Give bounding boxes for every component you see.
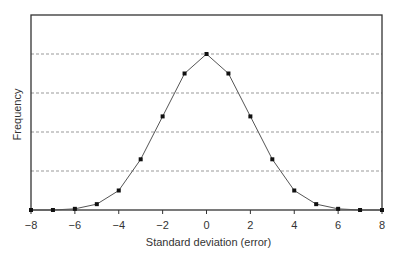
x-tick-label: 6 xyxy=(335,219,341,231)
x-tick-label: −4 xyxy=(112,219,125,231)
x-axis-label: Standard deviation (error) xyxy=(146,236,271,248)
data-point xyxy=(29,208,33,212)
x-tick-label: −2 xyxy=(156,219,169,231)
data-point xyxy=(226,72,230,76)
gridlines xyxy=(31,54,382,171)
data-point xyxy=(248,114,252,118)
data-point xyxy=(183,72,187,76)
data-point xyxy=(336,207,340,211)
x-tick-label: 4 xyxy=(291,219,297,231)
data-point xyxy=(73,207,77,211)
x-tick-label: 0 xyxy=(203,219,209,231)
data-point xyxy=(139,157,143,161)
data-point xyxy=(292,189,296,193)
data-point xyxy=(380,208,384,212)
x-tick-label: 2 xyxy=(247,219,253,231)
data-point xyxy=(358,208,362,212)
data-point xyxy=(51,208,55,212)
x-tick-label: −6 xyxy=(69,219,82,231)
x-tick-label: −8 xyxy=(25,219,38,231)
data-point xyxy=(314,202,318,206)
x-tick-label: 8 xyxy=(379,219,385,231)
data-point xyxy=(270,157,274,161)
data-point xyxy=(95,202,99,206)
chart-canvas: −8−6−4−202468 Standard deviation (error)… xyxy=(0,0,399,259)
data-point xyxy=(205,52,209,56)
data-point xyxy=(161,114,165,118)
y-axis-label: Frequency xyxy=(11,88,23,140)
data-point xyxy=(117,189,121,193)
plot-frame xyxy=(31,15,382,210)
x-axis-ticks: −8−6−4−202468 xyxy=(25,210,385,231)
